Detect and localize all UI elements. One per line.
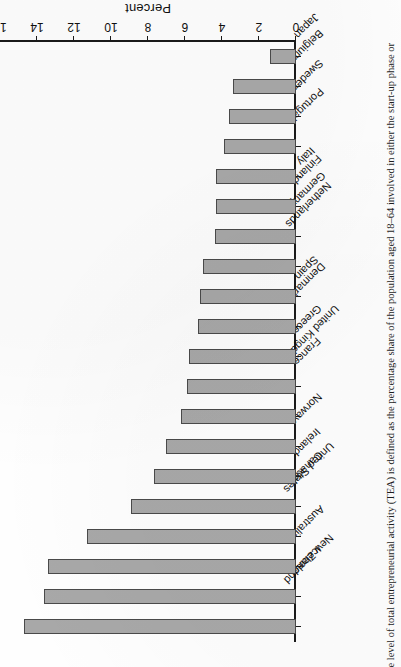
- category-tick: [296, 596, 301, 597]
- figure-caption: e level of total entrepreneurial activit…: [379, 0, 401, 667]
- category-tick: [296, 236, 301, 237]
- bar[interactable]: [181, 410, 296, 425]
- value-tick-label: 12: [67, 20, 80, 34]
- category-tick: [296, 266, 301, 267]
- category-tick: [296, 536, 301, 537]
- category-tick: [296, 566, 301, 567]
- bar-row[interactable]: [270, 42, 296, 72]
- category-tick: [296, 56, 301, 57]
- value-tick-label: 8: [145, 20, 152, 34]
- bar[interactable]: [229, 110, 296, 125]
- bar[interactable]: [24, 620, 296, 635]
- category-tick: [296, 296, 301, 297]
- value-tick: [295, 36, 296, 42]
- category-tick: [296, 506, 301, 507]
- bar[interactable]: [233, 80, 296, 95]
- bar[interactable]: [87, 530, 296, 545]
- bar-row[interactable]: [167, 432, 297, 462]
- category-tick: [296, 356, 301, 357]
- bar-row[interactable]: [187, 372, 296, 402]
- category-tick: [296, 446, 301, 447]
- caption-text: e level of total entrepreneurial activit…: [384, 0, 397, 667]
- category-tick: [296, 146, 301, 147]
- figure-rotated-container: New ZealandIcelandAustraliaUnited States…: [0, 0, 340, 667]
- value-tick: [221, 36, 222, 42]
- axis-title-percent: Percent: [0, 1, 296, 16]
- bar[interactable]: [198, 320, 296, 335]
- category-tick: [296, 416, 301, 417]
- bar-row[interactable]: [233, 72, 296, 102]
- value-tick-label: 4: [219, 20, 226, 34]
- bar-row[interactable]: [200, 282, 296, 312]
- bar-row[interactable]: [154, 462, 296, 492]
- bar-row[interactable]: [181, 402, 296, 432]
- category-tick: [296, 116, 301, 117]
- bar-chart: New ZealandIcelandAustraliaUnited States…: [0, 0, 340, 667]
- bar-row[interactable]: [216, 162, 296, 192]
- bar[interactable]: [44, 590, 296, 605]
- bar-row[interactable]: [189, 342, 296, 372]
- category-tick: [296, 176, 301, 177]
- bar[interactable]: [270, 50, 296, 65]
- category-tick: [296, 386, 301, 387]
- bar[interactable]: [215, 230, 296, 245]
- value-tick: [36, 36, 37, 42]
- value-tick-label: 2: [256, 20, 263, 34]
- bar-row[interactable]: [44, 582, 296, 612]
- bar-row[interactable]: [48, 552, 296, 582]
- bar-row[interactable]: [204, 252, 297, 282]
- bar[interactable]: [200, 290, 296, 305]
- value-tick: [147, 36, 148, 42]
- bar-row[interactable]: [198, 312, 296, 342]
- category-tick: [296, 626, 301, 627]
- bar[interactable]: [204, 260, 297, 275]
- bar-row[interactable]: [87, 522, 296, 552]
- bar-row[interactable]: [224, 132, 296, 162]
- value-tick: [184, 36, 185, 42]
- value-tick: [110, 36, 111, 42]
- bar[interactable]: [189, 350, 296, 365]
- plot-area: New ZealandIcelandAustraliaUnited States…: [0, 42, 296, 642]
- bar[interactable]: [154, 470, 296, 485]
- scanned-page: New ZealandIcelandAustraliaUnited States…: [0, 0, 401, 667]
- value-tick-label: 0: [293, 20, 300, 34]
- value-tick-label: 16: [0, 20, 7, 34]
- category-tick: [296, 326, 301, 327]
- category-tick: [296, 476, 301, 477]
- value-tick: [258, 36, 259, 42]
- bar-row[interactable]: [24, 612, 296, 642]
- bar-row[interactable]: [229, 102, 296, 132]
- bar[interactable]: [131, 500, 296, 515]
- bar-row[interactable]: [131, 492, 296, 522]
- value-tick-label: 14: [30, 20, 43, 34]
- bar-row[interactable]: [216, 192, 296, 222]
- category-tick: [296, 86, 301, 87]
- bar[interactable]: [224, 140, 296, 155]
- value-axis-line: [0, 40, 296, 42]
- bar[interactable]: [216, 170, 296, 185]
- bar-row[interactable]: [215, 222, 296, 252]
- bar[interactable]: [48, 560, 296, 575]
- category-tick: [296, 206, 301, 207]
- value-tick-label: 10: [104, 20, 117, 34]
- bar[interactable]: [187, 380, 296, 395]
- value-tick-label: 6: [182, 20, 189, 34]
- bar[interactable]: [216, 200, 296, 215]
- bar[interactable]: [167, 440, 297, 455]
- value-tick: [73, 36, 74, 42]
